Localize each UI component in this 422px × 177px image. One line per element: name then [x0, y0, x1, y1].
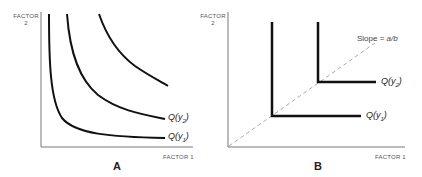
panel-b-expansion-ray: [229, 43, 375, 146]
panel-a-axes: [41, 12, 193, 147]
panel-a-x-axis-label: FACTOR 1: [163, 154, 194, 161]
panel-b-slope-label: Slope = a/b: [357, 34, 398, 43]
panel-a-y-label-line1: FACTOR: [12, 13, 40, 20]
panel-b-isoquant-q-y1: [272, 22, 361, 116]
panel-a-label-q-y2: Q(y2): [168, 112, 189, 124]
panel-a-y-axis-label: FACTOR 2: [12, 13, 40, 27]
panel-b-isoquant-q-y2: [318, 22, 376, 82]
panel-b-label-q-y1: Q(y1): [366, 110, 387, 122]
panel-a-letter: A: [113, 160, 121, 172]
panel-b-label-q-y2: Q(y2): [381, 76, 402, 88]
panel-b-y-label-line2: 2: [199, 20, 227, 27]
panel-b-letter: B: [314, 160, 322, 172]
panel-a-label-q-y1: Q(y1): [168, 131, 189, 143]
panel-b-y-axis-label: FACTOR 2: [199, 13, 227, 27]
panel-b-y-label-line1: FACTOR: [199, 13, 227, 20]
panel-b-axes: [228, 12, 405, 147]
panel-a-isoquant-q-y2: [67, 14, 165, 119]
panel-a-isoquant-upper: [99, 14, 168, 86]
panel-b-x-axis-label: FACTOR 1: [375, 154, 406, 161]
panel-a-y-label-line2: 2: [12, 20, 40, 27]
